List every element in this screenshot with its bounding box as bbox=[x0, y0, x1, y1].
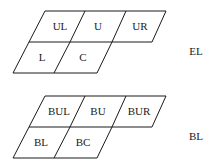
left-edge bbox=[13, 127, 29, 158]
right-edge bbox=[97, 42, 112, 73]
divider bbox=[70, 96, 85, 127]
divider bbox=[112, 11, 126, 42]
divider bbox=[70, 11, 85, 42]
group-el: UL U UR L C EL bbox=[13, 11, 203, 73]
cell-label: C bbox=[79, 51, 86, 63]
left-edge bbox=[29, 11, 45, 42]
cell-label: L bbox=[39, 51, 46, 63]
group-label: EL bbox=[189, 45, 203, 57]
right-edge bbox=[97, 127, 112, 158]
cell-label: BUL bbox=[48, 105, 70, 117]
cell-label: UR bbox=[132, 20, 148, 32]
left-edge bbox=[13, 42, 29, 73]
diagram-canvas: UL U UR L C EL BUL BU BUR BL BC BL bbox=[0, 0, 214, 166]
cell-label: BL bbox=[34, 136, 48, 148]
group-bl: BUL BU BUR BL BC BL bbox=[13, 96, 203, 158]
group-label: BL bbox=[189, 130, 203, 142]
cell-label: BC bbox=[76, 136, 91, 148]
cell-label: U bbox=[94, 20, 102, 32]
cell-label: UL bbox=[53, 20, 68, 32]
divider bbox=[54, 42, 70, 73]
left-edge bbox=[29, 96, 45, 127]
divider bbox=[54, 127, 70, 158]
divider bbox=[112, 96, 126, 127]
cell-label: BU bbox=[90, 105, 105, 117]
cell-label: BUR bbox=[128, 105, 151, 117]
